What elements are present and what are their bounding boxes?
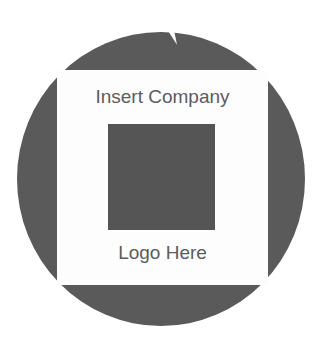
logo-here-label: Logo Here bbox=[57, 242, 268, 264]
logo-panel: Insert Company Logo Here bbox=[57, 70, 268, 285]
logo-placeholder-square bbox=[108, 124, 215, 230]
company-name-placeholder: Insert Company bbox=[57, 86, 268, 108]
